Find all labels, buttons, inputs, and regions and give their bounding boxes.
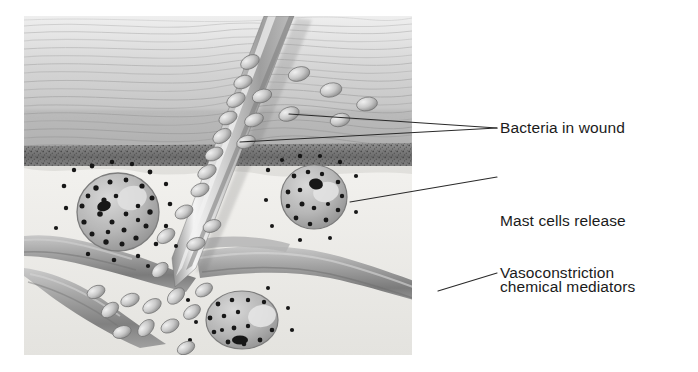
label-bacteria-in-wound: Bacteria in wound bbox=[500, 117, 625, 139]
paper-grain bbox=[24, 16, 412, 355]
label-mast-cells-line1: Mast cells release bbox=[500, 210, 635, 232]
label-mast-cells: Mast cells release chemical mediators bbox=[500, 166, 635, 320]
label-vasoconstriction: Vasoconstriction bbox=[500, 262, 614, 284]
illustration-panel bbox=[24, 16, 449, 357]
